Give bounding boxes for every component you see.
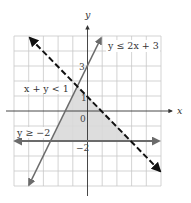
label-x-plus-y-lt-1: x + y < 1 bbox=[24, 83, 69, 94]
tick-1: 1 bbox=[81, 93, 87, 103]
tick-3: 3 bbox=[79, 62, 85, 72]
tick-0: 0 bbox=[80, 114, 86, 124]
feasible-region bbox=[51, 86, 132, 141]
tick-minus2: −2 bbox=[76, 143, 89, 153]
line-x-plus-y-lt-1 bbox=[30, 38, 160, 171]
label-y-le-2x-plus-3: y ≤ 2x + 3 bbox=[107, 40, 159, 51]
x-axis-label: x bbox=[177, 105, 183, 116]
label-y-ge-minus2: y ≥ −2 bbox=[16, 127, 50, 138]
y-axis-label: y bbox=[84, 9, 91, 20]
inequality-graph: x y 3 1 0 −2 y ≤ 2x + 3 x + y < 1 y ≥ −2 bbox=[0, 0, 191, 203]
